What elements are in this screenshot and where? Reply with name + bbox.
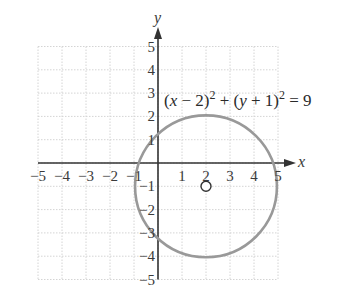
axes bbox=[38, 27, 296, 280]
y-tick-label: −3 bbox=[139, 225, 155, 241]
x-tick-label: 3 bbox=[226, 168, 234, 184]
x-axis-label: x bbox=[297, 153, 305, 170]
y-tick-label: −5 bbox=[139, 272, 155, 288]
x-tick-label: 4 bbox=[250, 168, 258, 184]
y-axis-arrow-icon bbox=[154, 27, 162, 39]
x-tick-label: −4 bbox=[54, 168, 70, 184]
y-tick-label: 3 bbox=[148, 85, 156, 101]
equation-label: (x − 2)2 + (y + 1)2 = 9 bbox=[164, 88, 312, 110]
x-axis-arrow-icon bbox=[284, 159, 296, 167]
y-tick-label: 1 bbox=[148, 132, 156, 148]
x-tick-label: −5 bbox=[30, 168, 46, 184]
y-tick-label: −2 bbox=[139, 202, 155, 218]
y-tick-label: −1 bbox=[139, 178, 155, 194]
x-tick-label: 5 bbox=[274, 168, 282, 184]
y-tick-label: 5 bbox=[148, 39, 156, 55]
chart-canvas: −5−4−3−2−11234554321−1−2−3−4−5 x y (x − … bbox=[0, 0, 356, 301]
y-tick-label: 2 bbox=[148, 108, 156, 124]
x-tick-label: 1 bbox=[178, 168, 186, 184]
x-tick-label: −3 bbox=[78, 168, 94, 184]
x-tick-label: 2 bbox=[202, 168, 210, 184]
y-tick-label: −4 bbox=[139, 248, 155, 264]
y-axis-label: y bbox=[152, 9, 162, 27]
y-tick-label: 4 bbox=[148, 62, 156, 78]
x-tick-label: −2 bbox=[102, 168, 118, 184]
